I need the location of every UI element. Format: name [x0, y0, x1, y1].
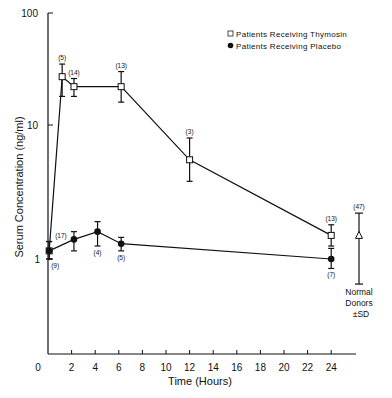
n-label: (13): [325, 215, 337, 223]
x-tick-label: 10: [160, 362, 172, 373]
legend-thymosin-label: Patients Receiving Thymosin: [236, 30, 347, 39]
y-tick-label: 1: [34, 254, 40, 265]
y-tick-label: 10: [27, 120, 39, 131]
thymosin-point: [118, 84, 124, 90]
x-tick-label: 22: [302, 362, 314, 373]
axes: [48, 13, 356, 354]
legend-thymosin-marker: [228, 31, 233, 36]
y-axis-title: Serum Concentration (ng/ml): [13, 116, 25, 257]
donor-label-line-2: Donors: [345, 298, 372, 308]
donor-label-line-1: Normal: [345, 287, 373, 297]
n-label: (4): [94, 249, 102, 257]
thymosin-point: [187, 157, 193, 163]
legend-placebo-marker: [228, 43, 234, 49]
normal-donors-label: Normal Donors ±SD: [345, 287, 373, 319]
n-label: (9): [51, 262, 59, 270]
placebo-point: [46, 248, 53, 255]
donor-n-label: (47): [353, 203, 365, 211]
legend: Patients Receiving Thymosin Patients Rec…: [228, 30, 347, 51]
placebo-point: [94, 228, 101, 235]
x-axis-title: Time (Hours): [168, 375, 232, 387]
x-tick-label: 2: [69, 362, 75, 373]
donor-label-line-3: ±SD: [353, 309, 369, 319]
n-label: (17): [55, 232, 67, 240]
placebo-point: [71, 236, 78, 243]
series-line-1: [49, 232, 331, 259]
x-tick-label: 16: [231, 362, 243, 373]
n-label: (3): [186, 128, 194, 136]
donor-triangle-marker: [356, 231, 363, 238]
thymosin-point: [328, 232, 334, 238]
x-tick-label: 4: [92, 362, 98, 373]
x-tick-label: 18: [255, 362, 267, 373]
thymosin-point: [59, 74, 65, 80]
n-label: (14): [68, 69, 80, 77]
n-label: (7): [327, 271, 335, 279]
x-tick-label: 24: [326, 362, 338, 373]
x-tick-label: 0: [35, 362, 41, 373]
y-tick-label: 100: [21, 8, 38, 19]
n-label: (5): [58, 54, 66, 62]
thymosin-point: [71, 84, 77, 90]
x-tick-label: 20: [278, 362, 290, 373]
placebo-point: [328, 256, 335, 263]
x-tick-label: 14: [208, 362, 220, 373]
n-label: (5): [117, 254, 125, 262]
n-label: (13): [115, 62, 127, 70]
x-tick-label: 8: [140, 362, 146, 373]
serum-concentration-chart: 024681012141618202224110100 (5)(14)(13)(…: [0, 0, 392, 398]
x-tick-label: 6: [116, 362, 122, 373]
legend-placebo-label: Patients Receiving Placebo: [236, 42, 341, 51]
placebo-point: [118, 240, 125, 247]
ticks: 024681012141618202224110100: [21, 8, 337, 374]
x-tick-label: 12: [184, 362, 196, 373]
